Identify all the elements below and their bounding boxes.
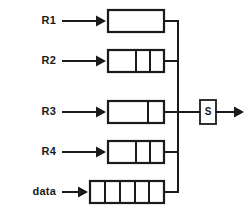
register-label-r1: R1 (30, 14, 56, 26)
input-arrow-r1-head (96, 16, 106, 27)
input-arrow-r2-head (96, 56, 106, 67)
selector-label-s: S (200, 106, 216, 117)
input-arrow-r4-head (96, 147, 106, 158)
register-label-r4: R4 (30, 145, 56, 157)
register-row-r2 (62, 50, 178, 72)
register-label-r2: R2 (30, 54, 56, 66)
register-box-data[interactable] (90, 181, 164, 203)
register-label-r3: R3 (30, 105, 56, 117)
register-box-r3[interactable] (108, 101, 164, 123)
register-row-r4 (62, 141, 178, 163)
register-label-data: data (14, 185, 56, 197)
input-arrow-data-head (78, 187, 88, 198)
register-row-r1 (62, 10, 178, 32)
output-arrow-head (234, 107, 244, 118)
register-bus-diagram: R1 R2 R3 R4 data S (0, 0, 248, 221)
register-row-r3 (62, 101, 200, 123)
register-row-data (62, 181, 178, 203)
register-box-r1[interactable] (108, 10, 164, 32)
input-arrow-r3-head (96, 107, 106, 118)
